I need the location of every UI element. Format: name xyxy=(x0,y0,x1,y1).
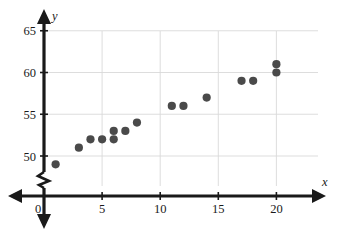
data-point xyxy=(272,68,280,76)
tick-marks-group xyxy=(40,31,276,200)
scatter-plot-figure: 5055606505101520 xy xyxy=(0,0,343,236)
axes-group xyxy=(8,9,326,229)
y-axis-break-symbol xyxy=(38,172,49,188)
data-point xyxy=(133,119,141,127)
y-tick-label-65: 65 xyxy=(24,24,37,38)
data-point xyxy=(86,135,94,143)
y-tick-label-60: 60 xyxy=(24,66,37,80)
vertical-gridlines xyxy=(102,31,276,186)
horizontal-gridlines xyxy=(44,31,318,156)
scatter-plot-canvas: 5055606505101520 xy xyxy=(0,0,343,236)
axis-names-group: xy xyxy=(50,9,328,189)
y-axis-arrow-down xyxy=(37,214,51,229)
x-tick-label-10: 10 xyxy=(154,202,167,216)
x-axis-label: x xyxy=(321,175,328,189)
tick-labels-group: 5055606505101520 xyxy=(24,24,283,216)
data-point xyxy=(121,127,129,135)
y-axis-label: y xyxy=(50,9,58,23)
y-tick-label-55: 55 xyxy=(24,108,37,122)
data-point xyxy=(110,127,118,135)
y-tick-label-50: 50 xyxy=(24,150,37,164)
data-point xyxy=(272,60,280,68)
data-point xyxy=(179,102,187,110)
data-point xyxy=(249,77,257,85)
data-point xyxy=(110,135,118,143)
x-tick-label-20: 20 xyxy=(270,202,283,216)
y-axis-arrow-up xyxy=(37,9,51,24)
x-tick-label-5: 5 xyxy=(99,202,105,216)
x-axis-arrow-right xyxy=(312,189,326,203)
data-point xyxy=(75,144,83,152)
data-point xyxy=(52,160,60,168)
data-point xyxy=(237,77,245,85)
x-tick-label-0: 0 xyxy=(35,202,41,216)
data-point xyxy=(98,135,106,143)
data-point xyxy=(168,102,176,110)
x-axis-arrow-left xyxy=(8,189,22,203)
x-tick-label-15: 15 xyxy=(212,202,225,216)
data-point xyxy=(203,93,211,101)
